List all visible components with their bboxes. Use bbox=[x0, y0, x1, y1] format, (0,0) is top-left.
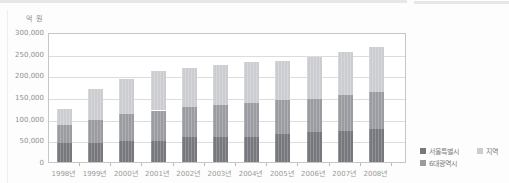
bar-segment-2000년-서울특별시 bbox=[119, 141, 134, 162]
y-axis-tick-label: 250,000 bbox=[14, 51, 44, 59]
x-axis-tick bbox=[297, 163, 298, 166]
bar-segment-2001년-지역 bbox=[151, 71, 166, 110]
x-axis-tick bbox=[329, 163, 330, 166]
bar-segment-2007년-6대광역시 bbox=[338, 95, 353, 131]
bar-segment-2008년-6대광역시 bbox=[369, 92, 384, 129]
document-page: 억 원 050,000100,000150,000200,000250,0003… bbox=[0, 0, 509, 183]
legend: 서울특별시 지역 6대광역시 bbox=[417, 144, 509, 170]
bar-segment-2005년-6대광역시 bbox=[275, 100, 290, 134]
bar-segment-2000년-6대광역시 bbox=[119, 114, 134, 141]
legend-item-jiyeok: 지역 bbox=[477, 146, 498, 156]
legend-swatch-six-metro bbox=[420, 160, 426, 166]
x-axis-tick bbox=[391, 163, 392, 166]
bar-segment-2002년-서울특별시 bbox=[182, 137, 197, 162]
bar-segment-2007년-지역 bbox=[338, 52, 353, 95]
legend-item-seoul: 서울특별시 bbox=[420, 146, 459, 156]
bar-segment-2003년-서울특별시 bbox=[213, 137, 228, 162]
bar-segment-2004년-서울특별시 bbox=[244, 137, 259, 162]
x-axis-tick bbox=[266, 163, 267, 166]
x-axis-tick bbox=[204, 163, 205, 166]
bar-segment-1999년-서울특별시 bbox=[88, 143, 103, 162]
bar-segment-1998년-지역 bbox=[57, 109, 72, 125]
x-axis-category-label: 2008년 bbox=[353, 168, 397, 178]
x-axis-tick bbox=[235, 163, 236, 166]
bar-segment-2008년-지역 bbox=[369, 47, 384, 92]
legend-swatch-jiyeok bbox=[477, 148, 483, 154]
bar-segment-2002년-지역 bbox=[182, 68, 197, 107]
bar-segment-2002년-6대광역시 bbox=[182, 107, 197, 137]
bar-segment-2005년-지역 bbox=[275, 61, 290, 100]
bar-segment-2006년-6대광역시 bbox=[307, 99, 322, 132]
x-axis-tick bbox=[173, 163, 174, 166]
legend-label-jiyeok: 지역 bbox=[486, 146, 498, 156]
bar-segment-1999년-6대광역시 bbox=[88, 120, 103, 143]
bar-segment-2008년-서울특별시 bbox=[369, 129, 384, 162]
x-axis-tick bbox=[79, 163, 80, 166]
stacked-bar-chart: 억 원 050,000100,000150,000200,000250,0003… bbox=[0, 0, 509, 183]
plot-area bbox=[48, 33, 406, 163]
legend-label-seoul: 서울특별시 bbox=[429, 146, 459, 156]
bar-segment-2007년-서울특별시 bbox=[338, 131, 353, 162]
bar-segment-2001년-6대광역시 bbox=[151, 111, 166, 141]
y-axis-tick-label: 0 bbox=[14, 159, 44, 167]
x-axis-tick bbox=[110, 163, 111, 166]
legend-swatch-seoul bbox=[420, 148, 426, 154]
x-axis-tick bbox=[360, 163, 361, 166]
bar-segment-2003년-지역 bbox=[213, 65, 228, 105]
bar-segment-2006년-서울특별시 bbox=[307, 132, 322, 162]
x-axis-tick bbox=[141, 163, 142, 166]
legend-item-six-metro: 6대광역시 bbox=[420, 158, 457, 168]
bar-segment-2000년-지역 bbox=[119, 79, 134, 114]
bar-segment-1998년-6대광역시 bbox=[57, 125, 72, 143]
y-axis-tick-label: 300,000 bbox=[14, 29, 44, 37]
bar-segment-2004년-지역 bbox=[244, 62, 259, 103]
bar-segment-1999년-지역 bbox=[88, 89, 103, 120]
y-axis-tick-label: 200,000 bbox=[14, 72, 44, 80]
bar-segment-2003년-6대광역시 bbox=[213, 104, 228, 137]
bar-segment-2005년-서울특별시 bbox=[275, 134, 290, 162]
y-axis-tick-label: 50,000 bbox=[14, 137, 44, 145]
legend-label-six-metro: 6대광역시 bbox=[429, 158, 457, 168]
y-axis-tick-label: 100,000 bbox=[14, 116, 44, 124]
bar-segment-2006년-지역 bbox=[307, 57, 322, 99]
y-axis-unit-label: 억 원 bbox=[26, 13, 43, 23]
y-axis-tick-label: 150,000 bbox=[14, 94, 44, 102]
bar-segment-1998년-서울특별시 bbox=[57, 143, 72, 162]
bar-segment-2001년-서울특별시 bbox=[151, 141, 166, 162]
bar-segment-2004년-6대광역시 bbox=[244, 103, 259, 137]
